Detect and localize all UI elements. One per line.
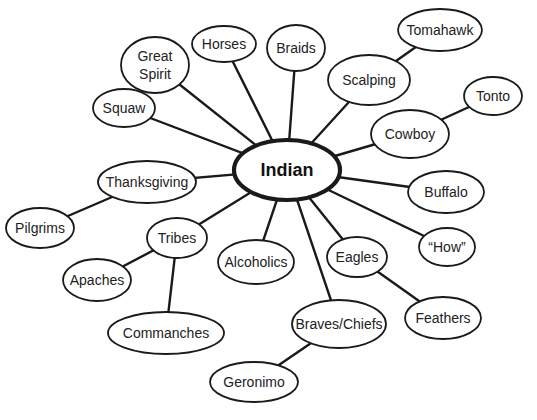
node-geronimo: Geronimo [210, 362, 298, 402]
node-label: Tribes [158, 230, 196, 246]
node-label: Thanksgiving [106, 174, 189, 190]
concept-map: GreatSpiritHorsesBraidsSquawTomahawkScal… [0, 0, 537, 420]
node-label: Geronimo [223, 374, 285, 390]
node-pilgrims: Pilgrims [6, 208, 74, 248]
node-feathers: Feathers [405, 297, 481, 339]
node-how: “How” [419, 228, 475, 266]
node-label: Indian [261, 160, 314, 180]
node-label: Alcoholics [224, 254, 287, 270]
node-label: Braves/Chiefs [295, 316, 382, 332]
node-label: Apaches [70, 272, 124, 288]
concept-nodes: GreatSpiritHorsesBraidsSquawTomahawkScal… [6, 9, 522, 402]
node-braids: Braids [267, 25, 325, 71]
node-eagles: Eagles [327, 237, 387, 277]
node-label: Squaw [103, 100, 147, 116]
node-great-spirit: GreatSpirit [121, 37, 189, 93]
node-label: Eagles [336, 249, 379, 265]
node-commanches: Commanches [108, 312, 224, 354]
node-alcoholics: Alcoholics [218, 240, 294, 284]
node-label: Cowboy [385, 126, 436, 142]
node-tribes: Tribes [147, 218, 207, 258]
node-scalping: Scalping [328, 55, 410, 105]
node-label: Braids [276, 40, 316, 56]
node-label: Scalping [342, 72, 396, 88]
node-horses: Horses [192, 26, 256, 62]
node-braves-chiefs: Braves/Chiefs [292, 300, 386, 348]
node-label: Spirit [139, 66, 171, 82]
node-label: Buffalo [424, 184, 468, 200]
node-buffalo: Buffalo [408, 171, 484, 213]
node-label: “How” [428, 239, 466, 255]
node-apaches: Apaches [63, 259, 131, 301]
node-cowboy: Cowboy [371, 110, 449, 158]
node-label: Horses [202, 36, 246, 52]
node-label: Feathers [415, 310, 470, 326]
node-label: Great [137, 48, 172, 64]
node-tonto: Tonto [464, 77, 522, 115]
node-thanksgiving: Thanksgiving [98, 161, 196, 203]
node-label: Tonto [476, 88, 510, 104]
node-squaw: Squaw [93, 89, 155, 127]
node-tomahawk: Tomahawk [398, 9, 482, 51]
node-label: Pilgrims [15, 220, 65, 236]
node-label: Tomahawk [407, 22, 475, 38]
node-indian: Indian [234, 140, 340, 200]
node-ellipse [121, 37, 189, 93]
node-label: Commanches [123, 325, 209, 341]
